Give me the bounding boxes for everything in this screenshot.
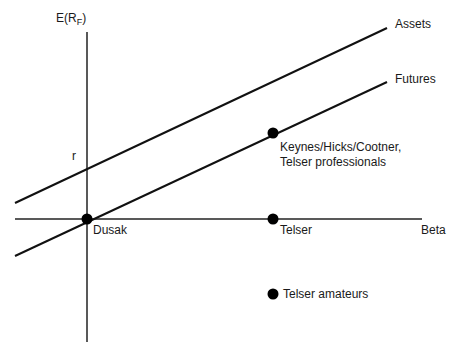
dusak-point: [82, 214, 93, 225]
intercept-label: r: [72, 149, 76, 163]
telser-amateurs-label: Telser amateurs: [283, 287, 368, 301]
keynes-point: [268, 128, 279, 139]
futures-line: [15, 82, 387, 256]
futures-label: Futures: [395, 72, 436, 86]
telser-point: [268, 214, 279, 225]
y-axis-label-close: ): [82, 11, 86, 25]
diagram-canvas: [0, 0, 459, 352]
assets-line: [15, 28, 387, 203]
y-axis-label-main: E(R: [56, 11, 77, 25]
assets-label: Assets: [395, 17, 431, 31]
telser-amateurs-point: [268, 289, 279, 300]
keynes-label-line1: Keynes/Hicks/Cootner,: [280, 140, 401, 154]
x-axis-label: Beta: [421, 223, 446, 237]
y-axis-label: E(RF): [56, 11, 86, 29]
telser-label: Telser: [280, 223, 312, 237]
dusak-label: Dusak: [93, 223, 127, 237]
keynes-label-line2: Telser professionals: [280, 155, 386, 169]
